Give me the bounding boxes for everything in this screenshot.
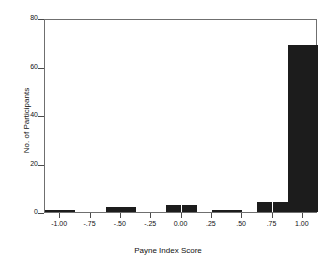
y-axis-tick	[38, 68, 44, 69]
x-axis-tick	[90, 213, 91, 218]
x-axis-tick	[150, 213, 151, 218]
histogram-bar	[288, 45, 303, 212]
x-axis-tick	[211, 213, 212, 218]
x-axis-tick	[181, 213, 182, 218]
histogram-bar	[106, 207, 121, 212]
histogram-bar	[121, 207, 136, 212]
plot-area	[44, 19, 317, 213]
y-axis-tick	[38, 213, 44, 214]
x-axis-title: Payne Index Score	[0, 246, 336, 255]
y-axis-tick-label: 40	[0, 111, 38, 118]
y-axis-tick-label: 80	[0, 14, 38, 21]
histogram-bar	[166, 205, 181, 212]
y-axis-tick-label: 60	[0, 63, 38, 70]
histogram-bar	[45, 210, 60, 212]
y-axis-tick-label: 20	[0, 160, 38, 167]
histogram-bar	[273, 202, 288, 212]
histogram-bar	[257, 202, 272, 212]
histogram-figure: No. of Participants Payne Index Score 02…	[0, 0, 336, 272]
x-axis-tick	[302, 213, 303, 218]
y-axis-tick	[38, 165, 44, 166]
histogram-bar	[182, 205, 197, 212]
histogram-bar	[212, 210, 227, 212]
histogram-bar	[60, 210, 75, 212]
x-axis-tick	[59, 213, 60, 218]
y-axis-tick-label: 0	[0, 208, 38, 215]
histogram-bar	[227, 210, 242, 212]
y-axis-tick	[38, 116, 44, 117]
x-axis-tick-label: 1.00	[282, 220, 322, 227]
histogram-bar	[303, 45, 318, 212]
y-axis-title: No. of Participants	[22, 51, 31, 191]
x-axis-tick	[272, 213, 273, 218]
bars-layer	[45, 20, 316, 212]
x-axis-tick	[241, 213, 242, 218]
y-axis-tick	[38, 19, 44, 20]
x-axis-tick	[120, 213, 121, 218]
